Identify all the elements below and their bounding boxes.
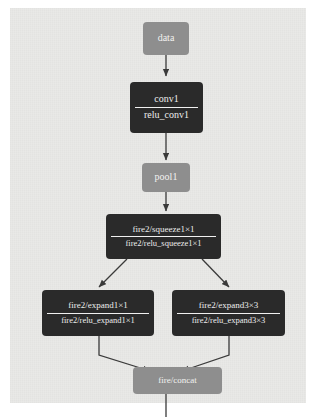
edge-squeeze-to-expand1x1	[99, 259, 127, 287]
node-fire2-squeeze[interactable]: fire2/squeeze1×1 fire2/relu_squeeze1×1	[106, 214, 221, 259]
node-fire2-squeeze-label: fire2/squeeze1×1	[106, 225, 221, 235]
node-conv1[interactable]: conv1 relu_conv1	[130, 82, 203, 133]
node-pool1[interactable]: pool1	[142, 163, 190, 192]
diagram-canvas: data conv1 relu_conv1 pool1 fire2/squeez…	[0, 0, 316, 417]
node-fire2-relu-expand1x1-label: fire2/relu_expand1×1	[42, 316, 154, 325]
node-fire2-relu-squeeze-label: fire2/relu_squeeze1×1	[106, 239, 221, 248]
node-relu-conv1-label: relu_conv1	[130, 110, 203, 121]
node-fire2-expand3x3-label: fire2/expand3×3	[172, 301, 285, 311]
diagram-edges	[0, 0, 316, 417]
node-pool1-label: pool1	[142, 172, 190, 183]
node-fire-concat[interactable]: fire/concat	[133, 367, 222, 394]
node-fire2-expand1x1-divider	[47, 313, 149, 314]
node-data-label: data	[143, 33, 189, 44]
node-fire2-relu-expand3x3-label: fire2/relu_expand3×3	[172, 316, 285, 325]
node-conv1-label: conv1	[130, 94, 203, 105]
node-conv1-divider	[135, 107, 198, 108]
node-data[interactable]: data	[143, 22, 189, 55]
node-fire2-expand1x1[interactable]: fire2/expand1×1 fire2/relu_expand1×1	[42, 290, 154, 336]
edge-expand1x1-to-concat	[99, 336, 150, 371]
node-fire2-expand1x1-label: fire2/expand1×1	[42, 301, 154, 311]
node-fire2-expand3x3-divider	[177, 313, 280, 314]
edge-squeeze-to-expand3x3	[202, 259, 229, 287]
node-fire2-squeeze-divider	[111, 236, 216, 237]
node-fire-concat-label: fire/concat	[133, 376, 222, 386]
node-fire2-expand3x3[interactable]: fire2/expand3×3 fire2/relu_expand3×3	[172, 290, 285, 336]
edge-expand3x3-to-concat	[182, 336, 229, 371]
